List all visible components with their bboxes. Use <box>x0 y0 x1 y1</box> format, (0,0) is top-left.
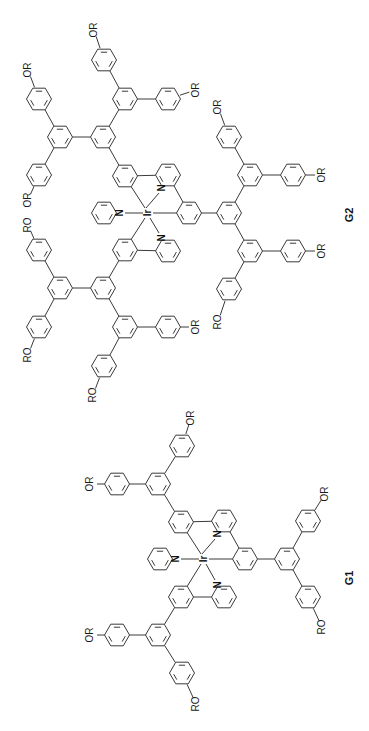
g1-up-t1-bond <box>165 457 176 474</box>
g1-right-t2-ether-bond <box>313 608 319 620</box>
double-bond <box>31 100 34 105</box>
g2-right-a-t1-bond <box>235 148 244 164</box>
atom-label-layer: IrNNNIrNNN <box>114 184 223 588</box>
double-bond <box>234 290 237 295</box>
double-bond <box>173 523 176 528</box>
double-bond <box>237 560 240 565</box>
double-bond <box>117 328 120 333</box>
double-bond <box>173 598 176 603</box>
g2-up-b-t1-bond <box>45 110 54 126</box>
g2-n-up: N <box>156 184 167 191</box>
g2-right-a-t1-label: OR <box>212 100 223 115</box>
g2-down-b-t1-label: OR <box>190 320 201 335</box>
double-bond <box>229 522 232 527</box>
double-bond <box>221 290 224 295</box>
double-bond <box>300 598 303 603</box>
g2-right-b-t1-label: OR <box>316 244 327 259</box>
double-bond <box>122 636 125 641</box>
double-bond <box>186 523 189 528</box>
double-bond <box>300 522 303 527</box>
g2-ir-n-bond <box>146 193 159 208</box>
double-bond <box>216 598 219 603</box>
double-bond <box>221 138 224 143</box>
double-bond <box>174 447 177 452</box>
g1-down-t2-ether-bond <box>187 684 193 697</box>
bond-layer <box>30 37 321 698</box>
g2-up-link <box>109 148 119 165</box>
double-bond <box>109 636 112 641</box>
double-bond <box>152 560 155 565</box>
g2-down-link <box>109 261 118 277</box>
double-bond <box>117 251 120 256</box>
g2-down-a-t2-ether-bond <box>31 339 35 349</box>
double-bond <box>108 289 111 294</box>
double-bond <box>109 367 112 372</box>
g1-down-t2-bond <box>165 646 176 663</box>
g2-up-a-t2-label: OR <box>190 83 201 98</box>
g2-down-a-t2-bond <box>45 299 54 316</box>
double-bond <box>298 176 301 181</box>
double-bond <box>96 214 99 219</box>
g1-n-left: N <box>170 555 181 562</box>
g1-ir-c-bond <box>187 533 201 554</box>
double-bond <box>279 560 282 565</box>
g2-right-b-t2-ether-bond <box>220 301 225 316</box>
g1-right-t2-label: RO <box>316 619 327 634</box>
double-bond <box>242 176 245 181</box>
g2-down-b-t2-label: RO <box>87 387 98 402</box>
double-bond <box>216 522 219 527</box>
g2-up-a-t1-label: OR <box>88 23 99 38</box>
double-bond <box>44 176 47 181</box>
double-bond <box>31 328 34 333</box>
double-bond <box>109 485 112 490</box>
g2-right-gen2-b-bond <box>235 224 244 240</box>
double-bond <box>108 138 111 143</box>
double-bond <box>255 176 258 181</box>
double-bond <box>173 176 176 181</box>
g2-down-a-t1-label: RO <box>22 217 33 232</box>
double-bond <box>130 177 133 182</box>
double-bond <box>31 251 34 256</box>
g1-up-t2-label: OR <box>84 477 95 492</box>
double-bond <box>255 252 258 257</box>
g1-up-link <box>164 495 174 512</box>
g2-right-a-t2-label: OR <box>316 168 327 183</box>
double-bond <box>173 252 176 257</box>
double-bond <box>313 598 316 603</box>
double-bond <box>109 214 112 219</box>
double-bond <box>163 485 166 490</box>
g2-down-a-t1-bond <box>45 261 54 277</box>
g2-up-a-t1-bond <box>110 71 119 88</box>
g2-right-b-t2-bond <box>235 262 244 278</box>
double-bond <box>186 598 189 603</box>
g2-down-a-t2-label: RO <box>22 347 33 362</box>
g2-up-b-t2-bond <box>45 148 54 164</box>
double-bond <box>194 214 197 219</box>
double-bond <box>160 328 163 333</box>
g1-right-t1-bond <box>293 532 302 548</box>
g2-ir-atom: Ir <box>142 210 153 217</box>
double-bond <box>234 214 237 219</box>
double-bond <box>174 674 177 679</box>
g1-down-link <box>164 608 174 625</box>
double-bond <box>173 100 176 105</box>
double-bond <box>44 251 47 256</box>
g1-ir-atom: Ir <box>198 556 209 563</box>
g2-up-b-t1-label: OR <box>22 63 33 78</box>
double-bond <box>95 289 98 294</box>
g2-up-a-t2-ether-bond <box>180 92 189 95</box>
g2-ir-n-bond <box>150 218 159 233</box>
double-bond <box>117 100 120 105</box>
double-bond <box>65 138 68 143</box>
g2-ppy-bond-right <box>174 186 183 202</box>
double-bond <box>187 674 190 679</box>
g2-n-down: N <box>156 234 167 241</box>
g1-right-t2-bond <box>293 570 302 586</box>
g1-up-t1-label: OR <box>185 411 196 426</box>
g1-ppy-bond-right <box>230 532 239 548</box>
g1-down-t2-label: RO <box>190 696 201 711</box>
double-bond <box>234 138 237 143</box>
double-bond <box>109 61 112 66</box>
double-bond <box>285 252 288 257</box>
dendrimer-structures-figure: IrNNNIrNNN ORORORROORROORORORORORORORROR… <box>0 0 369 731</box>
